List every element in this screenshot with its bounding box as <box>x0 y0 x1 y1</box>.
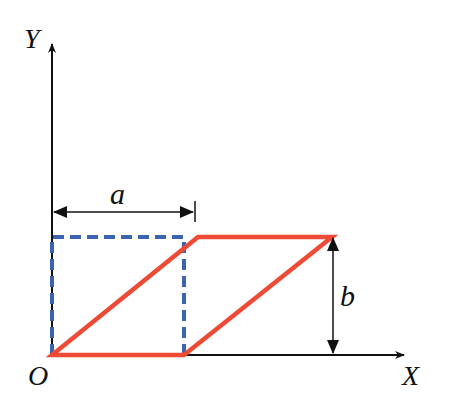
x-axis-label: X <box>401 360 420 391</box>
origin-label: O <box>28 360 48 391</box>
height-label-b: b <box>340 279 355 312</box>
shear-diagram: Y X O a b <box>0 0 451 406</box>
y-axis-label: Y <box>24 23 43 54</box>
width-label-a: a <box>110 177 125 210</box>
sheared-parallelogram <box>52 237 332 355</box>
